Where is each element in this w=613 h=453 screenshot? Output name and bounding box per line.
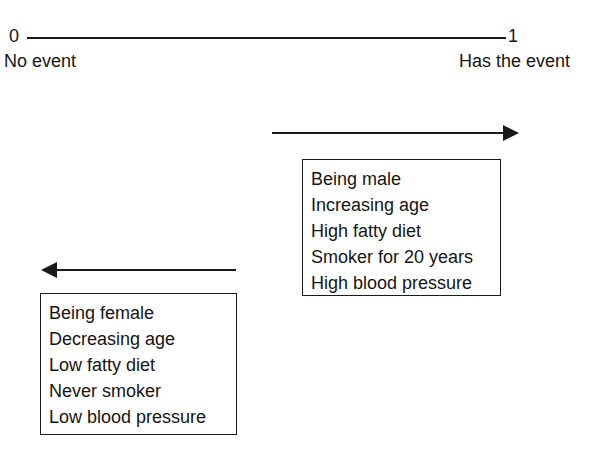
list-item: Being female bbox=[49, 300, 236, 326]
arrow-left-icon bbox=[41, 262, 57, 278]
arrow-right-shaft bbox=[272, 132, 512, 134]
list-item: Low blood pressure bbox=[49, 404, 236, 430]
list-item: High blood pressure bbox=[311, 270, 500, 296]
arrow-right-icon bbox=[503, 125, 519, 141]
scale-max-caption: Has the event bbox=[459, 51, 570, 71]
scale-min-value: 0 bbox=[9, 26, 19, 46]
probability-scale-line bbox=[27, 37, 506, 39]
arrow-left-shaft bbox=[56, 269, 236, 271]
list-item: Smoker for 20 years bbox=[311, 244, 500, 270]
scale-max-value: 1 bbox=[508, 26, 518, 46]
list-item: Decreasing age bbox=[49, 326, 236, 352]
list-item: Low fatty diet bbox=[49, 352, 236, 378]
diagram-canvas: 0 1 No event Has the event Being male In… bbox=[0, 0, 613, 453]
decrease-risk-factor-box: Being female Decreasing age Low fatty di… bbox=[40, 293, 237, 435]
list-item: Being male bbox=[311, 166, 500, 192]
list-item: Increasing age bbox=[311, 192, 500, 218]
list-item: Never smoker bbox=[49, 378, 236, 404]
increase-risk-factor-box: Being male Increasing age High fatty die… bbox=[302, 159, 501, 296]
scale-min-caption: No event bbox=[4, 51, 76, 71]
list-item: High fatty diet bbox=[311, 218, 500, 244]
